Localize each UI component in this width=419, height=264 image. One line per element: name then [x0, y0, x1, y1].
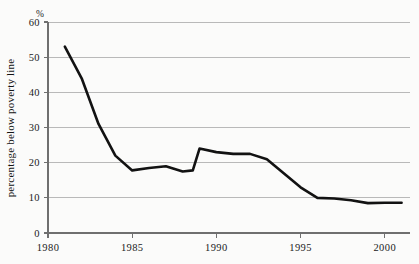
x-tick-label: 1985	[121, 242, 144, 253]
x-tick-label: 1980	[37, 242, 60, 253]
x-axis-ticks: 19801985199019952000	[37, 233, 396, 253]
y-axis-unit-label: %	[36, 9, 44, 19]
gridlines	[48, 22, 410, 198]
y-tick-label: 30	[29, 122, 40, 133]
y-tick-label: 40	[29, 87, 40, 98]
x-tick-label: 1990	[205, 242, 228, 253]
poverty-line-chart: 0102030405060 19801985199019952000 % per…	[0, 0, 419, 264]
x-tick-label: 2000	[373, 242, 396, 253]
y-tick-label: 0	[34, 228, 40, 239]
y-axis-ticks: 0102030405060	[29, 17, 48, 239]
chart-svg: 0102030405060 19801985199019952000 % per…	[0, 0, 419, 264]
y-tick-label: 10	[29, 192, 40, 203]
x-tick-label: 1995	[289, 242, 312, 253]
y-tick-label: 20	[29, 157, 40, 168]
poverty-rate-line	[65, 47, 402, 203]
y-tick-label: 50	[29, 52, 40, 63]
y-axis-title: percentage below poverty line	[4, 59, 16, 198]
